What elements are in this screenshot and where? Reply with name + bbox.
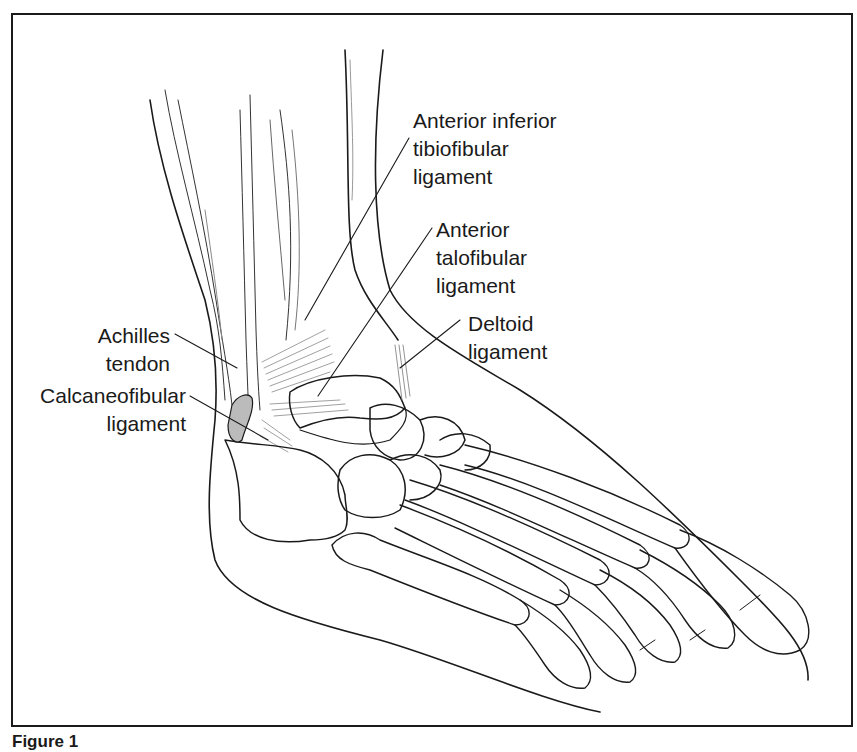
label-line: talofibular: [436, 244, 527, 272]
label-line: Anterior inferior: [413, 107, 557, 135]
leader-achilles: [175, 334, 237, 368]
label-line: Calcaneofibular: [20, 382, 186, 410]
label-line: tibiofibular: [413, 135, 557, 163]
label-line: ligament: [436, 272, 527, 300]
label-line: ligament: [413, 163, 557, 191]
leader-anterior-talofibular: [318, 228, 432, 396]
leader-anterior-inferior-tibiofibular: [305, 138, 409, 320]
label-anterior-talofibular-ligament: Anterior talofibular ligament: [436, 216, 527, 300]
ligament-hatching: [260, 330, 348, 452]
phalanges: [515, 530, 809, 688]
label-line: ligament: [20, 410, 186, 438]
figure-caption: Figure 1: [12, 732, 78, 752]
tendon-lines: [165, 60, 353, 420]
metatarsal-bones: [332, 445, 689, 625]
label-line: Anterior: [436, 216, 527, 244]
label-line: Deltoid: [468, 310, 547, 338]
label-deltoid-ligament: Deltoid ligament: [468, 310, 547, 366]
label-achilles-tendon: Achilles tendon: [60, 322, 170, 378]
calcaneus-bone: [225, 440, 347, 542]
label-line: ligament: [468, 338, 547, 366]
label-line: tendon: [60, 350, 170, 378]
label-line: Achilles: [60, 322, 170, 350]
label-anterior-inferior-tibiofibular-ligament: Anterior inferior tibiofibular ligament: [413, 107, 557, 191]
label-calcaneofibular-ligament: Calcaneofibular ligament: [20, 382, 186, 438]
leader-deltoid: [400, 320, 460, 368]
